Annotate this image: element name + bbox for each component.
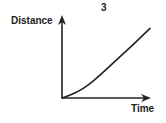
distance-time-graph: [0, 0, 166, 123]
y-axis: [58, 15, 66, 98]
x-axis: [62, 94, 151, 102]
distance-curve: [62, 28, 150, 98]
